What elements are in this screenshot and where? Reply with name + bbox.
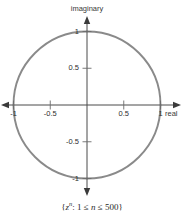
y-tick-label-1: 1 — [55, 28, 79, 36]
caption-close-brace: } — [118, 202, 122, 212]
x-tick-label-neg1: -1 — [2, 110, 26, 118]
caption-middle-text: : 1 ≤ — [72, 202, 91, 212]
x-tick-label-neg0-5: -0.5 — [38, 110, 62, 118]
imaginary-axis-arrow-down-icon — [84, 188, 90, 196]
x-tick-label-0-5: 0.5 — [112, 110, 136, 118]
real-axis-arrow-left-icon — [1, 102, 9, 108]
imaginary-axis-label: imaginary — [63, 5, 111, 13]
imaginary-axis-arrow-up-icon — [84, 16, 90, 24]
y-tick-label-0-5: 0.5 — [55, 64, 79, 72]
caption-tail-text: ≤ 500 — [96, 202, 119, 212]
y-tick-label-neg0-5: -0.5 — [55, 138, 79, 146]
x-tick-label-1: 1 — [149, 110, 173, 118]
y-tick-label-neg1: -1 — [55, 175, 79, 183]
figure-caption: {zn: 1 ≤ n ≤ 500} — [0, 203, 184, 212]
real-axis-arrow-right-icon — [173, 102, 181, 108]
complex-plane-figure: imaginary real -1 -0.5 0.5 1 1 0.5 -0.5 … — [0, 0, 184, 224]
